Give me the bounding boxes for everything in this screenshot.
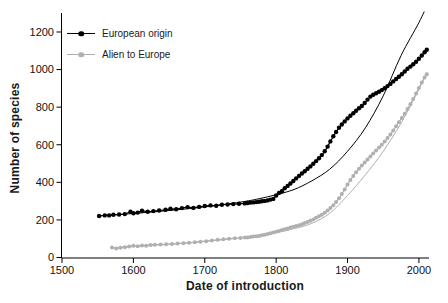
- data-point: [208, 203, 212, 207]
- y-tick-label: 800: [36, 101, 54, 113]
- x-axis-title: Date of introduction: [61, 279, 429, 293]
- data-point: [357, 167, 361, 171]
- data-point: [386, 136, 390, 140]
- data-point: [383, 140, 387, 144]
- data-point: [149, 243, 153, 247]
- data-point: [374, 148, 378, 152]
- data-point: [174, 207, 178, 211]
- data-point: [328, 139, 332, 143]
- legend-label-european-origin: European origin: [102, 28, 173, 39]
- series-alien-to-europe-points: [110, 72, 429, 250]
- y-tick-label: 600: [36, 139, 54, 151]
- data-point: [334, 130, 338, 134]
- data-point: [325, 144, 329, 148]
- data-point: [425, 48, 429, 52]
- trend-line-alien-to-europe: [112, 72, 427, 248]
- data-point: [388, 132, 392, 136]
- data-point: [157, 208, 161, 212]
- legend-label-alien-to-europe: Alien to Europe: [102, 49, 170, 60]
- data-point: [371, 151, 375, 155]
- data-point: [394, 124, 398, 128]
- data-point: [340, 192, 344, 196]
- legend-item-alien-to-europe: Alien to Europe: [67, 44, 173, 65]
- legend-marker-alien-to-europe: [67, 50, 95, 59]
- data-point: [323, 149, 327, 153]
- series-alien-to-europe: [110, 72, 429, 250]
- y-tick-label: 0: [48, 251, 54, 263]
- y-tick-label: 1200: [30, 26, 54, 38]
- data-point: [360, 164, 364, 168]
- data-point: [368, 154, 372, 158]
- data-point: [337, 196, 341, 200]
- y-tick-label: 1000: [30, 63, 54, 75]
- legend: European origin Alien to Europe: [67, 23, 173, 65]
- data-point: [391, 129, 395, 133]
- x-tick-label: 1800: [264, 264, 288, 276]
- data-point: [331, 134, 335, 138]
- legend-dot-icon: [78, 52, 84, 58]
- data-point: [363, 101, 367, 105]
- data-point: [151, 209, 155, 213]
- data-point: [343, 188, 347, 192]
- data-point: [380, 143, 384, 147]
- y-tick-label: 400: [36, 176, 54, 188]
- legend-marker-european-origin: [67, 29, 95, 38]
- data-point: [114, 247, 118, 251]
- data-point: [131, 244, 135, 248]
- x-tick-label: 1500: [50, 264, 74, 276]
- x-tick-label: 1600: [121, 264, 145, 276]
- data-point: [331, 203, 335, 207]
- data-point: [363, 161, 367, 165]
- data-point: [351, 174, 355, 178]
- legend-dot-icon: [78, 31, 84, 37]
- data-point: [110, 245, 114, 249]
- species-introduction-chart: 0200400600800100012001500160017001800190…: [0, 0, 448, 303]
- y-axis-title: Number of species: [8, 83, 22, 194]
- series-alien-to-europe-line: [112, 74, 427, 248]
- series-european-origin-points: [97, 48, 429, 219]
- data-point: [366, 157, 370, 161]
- series-european-origin-line: [99, 50, 427, 216]
- data-point: [320, 153, 324, 157]
- data-point: [334, 200, 338, 204]
- x-tick-label: 2000: [407, 264, 431, 276]
- data-point: [377, 146, 381, 150]
- data-point: [328, 206, 332, 210]
- y-tick-label: 200: [36, 214, 54, 226]
- data-point: [271, 197, 275, 201]
- data-point: [354, 170, 358, 174]
- data-point: [348, 178, 352, 182]
- legend-item-european-origin: European origin: [67, 23, 173, 44]
- x-tick-label: 1900: [335, 264, 359, 276]
- x-tick-label: 1700: [193, 264, 217, 276]
- data-point: [346, 183, 350, 187]
- ticks: [57, 32, 419, 263]
